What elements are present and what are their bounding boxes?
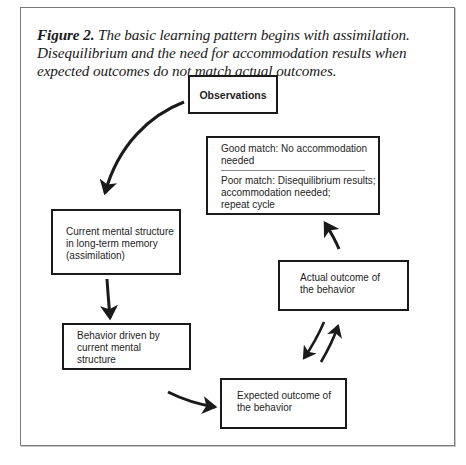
expected-outcome-line1: Expected outcome of bbox=[237, 390, 331, 402]
behavior-line2: current mental bbox=[77, 342, 160, 354]
current-structure-line1: Current mental structure bbox=[66, 226, 174, 238]
match-divider bbox=[221, 170, 365, 171]
behavior-line3: structure bbox=[77, 354, 160, 366]
current-structure-box: Current mental structure in long-term me… bbox=[51, 209, 181, 275]
current-structure-line3: (assimilation) bbox=[66, 250, 174, 262]
poor-match-line2: accommodation needed; bbox=[221, 187, 376, 199]
actual-outcome-box: Actual outcome of the behavior bbox=[278, 260, 409, 311]
match-outcome-box: Good match: No accommodation needed Poor… bbox=[206, 136, 380, 215]
behavior-line1: Behavior driven by bbox=[77, 330, 160, 342]
behavior-box: Behavior driven by current mental struct… bbox=[62, 323, 191, 370]
figure-label: Figure 2. bbox=[37, 26, 94, 43]
actual-outcome-line2: the behavior bbox=[300, 284, 380, 296]
expected-outcome-line2: the behavior bbox=[237, 402, 331, 414]
figure-caption: Figure 2. The basic learning pattern beg… bbox=[37, 26, 442, 80]
poor-match-line1: Poor match: Disequilibrium results; bbox=[221, 175, 376, 187]
observations-label: Observations bbox=[190, 89, 276, 101]
good-match-line1: Good match: No accommodation bbox=[221, 143, 367, 155]
observations-box: Observations bbox=[188, 75, 278, 114]
expected-outcome-box: Expected outcome of the behavior bbox=[220, 378, 347, 429]
poor-match-line3: repeat cycle bbox=[221, 199, 376, 211]
actual-outcome-line1: Actual outcome of bbox=[300, 272, 380, 284]
good-match-line2: needed bbox=[221, 155, 367, 167]
current-structure-line2: in long-term memory bbox=[66, 238, 174, 250]
